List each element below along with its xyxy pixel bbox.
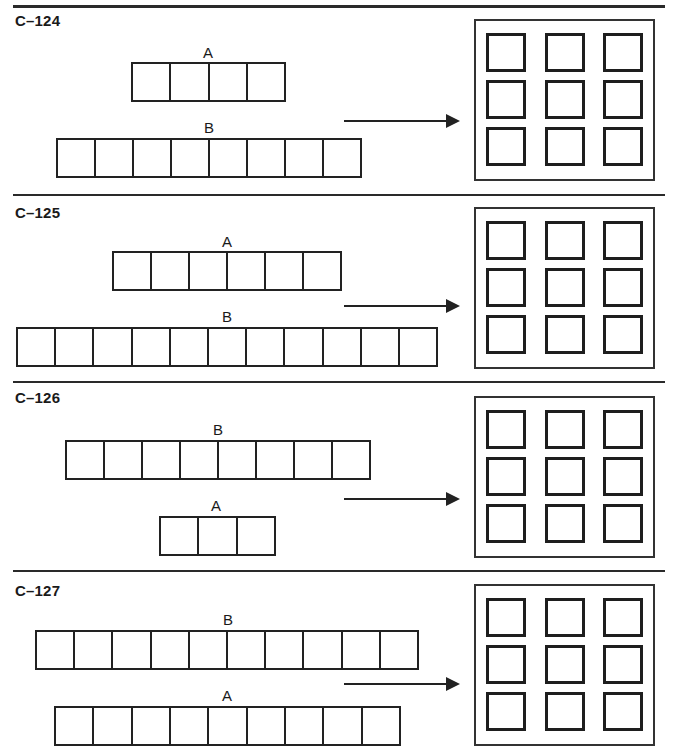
problem-number: C–127 xyxy=(15,582,60,599)
bar-cell xyxy=(266,632,304,668)
answer-square[interactable] xyxy=(486,598,526,637)
bar-cell xyxy=(343,632,381,668)
answer-square[interactable] xyxy=(486,645,526,684)
bar-cell xyxy=(37,632,75,668)
bar-cell xyxy=(324,708,362,744)
problem-c127: C–127 B A xyxy=(0,0,679,754)
bar-cell xyxy=(228,632,266,668)
arrow-right-icon xyxy=(344,683,458,685)
bar-cell xyxy=(286,708,324,744)
bar-cell xyxy=(75,632,113,668)
bar-top xyxy=(35,630,419,670)
bar-cell xyxy=(56,708,94,744)
bar-cell xyxy=(171,708,209,744)
answer-square[interactable] xyxy=(603,645,643,684)
bar-cell xyxy=(209,708,247,744)
bar-cell xyxy=(133,708,171,744)
bar-cell xyxy=(363,708,399,744)
answer-square[interactable] xyxy=(545,598,585,637)
answer-square[interactable] xyxy=(486,692,526,731)
bar-cell xyxy=(381,632,417,668)
bar-label: A xyxy=(222,687,232,704)
bar-cell xyxy=(152,632,190,668)
bar-cell xyxy=(304,632,342,668)
bar-cell xyxy=(248,708,286,744)
answer-square[interactable] xyxy=(545,692,585,731)
bar-cell xyxy=(94,708,132,744)
answer-square[interactable] xyxy=(603,598,643,637)
bar-label: B xyxy=(223,611,233,628)
bar-cell xyxy=(113,632,151,668)
answer-grid xyxy=(474,584,655,746)
bar-cell xyxy=(190,632,228,668)
answer-square[interactable] xyxy=(545,645,585,684)
bar-bottom xyxy=(54,706,401,746)
answer-square[interactable] xyxy=(603,692,643,731)
